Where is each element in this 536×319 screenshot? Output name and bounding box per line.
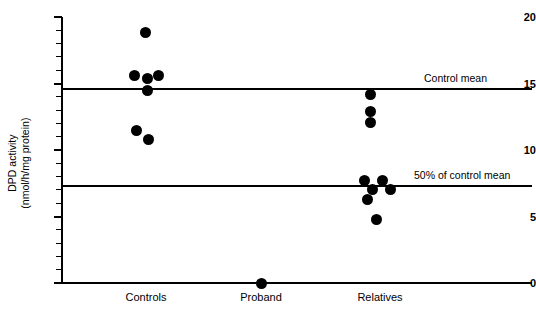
x-axis-line xyxy=(61,282,532,284)
dpd-activity-scatter-chart: DPD activity (nmol/h/mg protein) 0510152… xyxy=(0,0,536,319)
reference-line-label-half-control-mean: 50% of control mean xyxy=(414,170,510,181)
y-axis-minor-tick xyxy=(56,203,62,204)
y-axis-tick-label: 5 xyxy=(488,212,536,223)
y-axis-minor-tick xyxy=(56,70,62,71)
y-axis-minor-tick xyxy=(56,136,62,137)
data-point-relatives xyxy=(371,214,382,225)
y-axis-minor-tick xyxy=(56,110,62,111)
y-axis-minor-tick xyxy=(56,189,62,190)
y-axis-minor-tick xyxy=(56,243,62,244)
data-point-controls xyxy=(143,134,154,145)
y-axis-title: DPD activity (nmol/h/mg protein) xyxy=(6,68,32,258)
y-axis-major-tick xyxy=(54,16,62,18)
x-axis-label-relatives: Relatives xyxy=(320,292,440,303)
y-axis-minor-tick xyxy=(56,123,62,124)
y-axis-tick-label: 0 xyxy=(488,278,536,289)
y-axis-title-line-2: (nmol/h/mg protein) xyxy=(19,68,32,258)
data-point-relatives xyxy=(365,106,376,117)
data-point-controls xyxy=(142,73,153,84)
y-axis-major-tick xyxy=(54,216,62,218)
y-axis-major-tick xyxy=(54,83,62,85)
data-point-controls xyxy=(140,27,151,38)
reference-line-label-control-mean: Control mean xyxy=(424,73,487,84)
y-axis-title-line-1: DPD activity xyxy=(6,68,19,258)
reference-line-half-control-mean xyxy=(61,185,532,187)
y-axis-minor-tick xyxy=(56,269,62,270)
data-point-proband xyxy=(256,278,267,289)
y-axis-minor-tick xyxy=(56,96,62,97)
data-point-relatives xyxy=(365,117,376,128)
y-axis-major-tick xyxy=(54,149,62,151)
data-point-controls xyxy=(129,70,140,81)
data-point-relatives xyxy=(385,184,396,195)
y-axis-minor-tick xyxy=(56,163,62,164)
data-point-controls xyxy=(131,125,142,136)
y-axis-minor-tick xyxy=(56,30,62,31)
x-axis-label-proband: Proband xyxy=(201,292,321,303)
y-axis-minor-tick xyxy=(56,56,62,57)
y-axis-tick-label: 10 xyxy=(488,145,536,156)
data-point-relatives xyxy=(365,89,376,100)
y-axis-tick-label: 20 xyxy=(488,12,536,23)
x-axis-label-controls: Controls xyxy=(86,292,206,303)
y-axis-minor-tick xyxy=(56,176,62,177)
data-point-controls xyxy=(142,85,153,96)
y-axis-minor-tick xyxy=(56,229,62,230)
data-point-relatives xyxy=(362,194,373,205)
y-axis-minor-tick xyxy=(56,256,62,257)
reference-line-control-mean xyxy=(61,88,532,90)
data-point-controls xyxy=(153,70,164,81)
y-axis-minor-tick xyxy=(56,43,62,44)
y-axis-major-tick xyxy=(54,282,62,284)
